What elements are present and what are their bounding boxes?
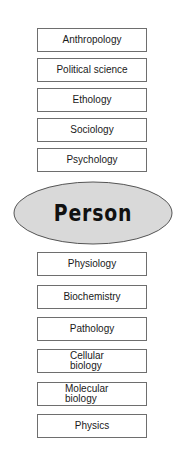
box-label: Ethology bbox=[73, 95, 112, 105]
box-label: Molecular biology bbox=[65, 384, 111, 404]
box-label: Pathology bbox=[70, 324, 114, 334]
box-label: Physiology bbox=[68, 259, 116, 269]
box-label: Sociology bbox=[70, 125, 113, 135]
box-political-science: Political science bbox=[37, 58, 147, 82]
box-anthropology: Anthropology bbox=[37, 28, 147, 52]
box-psychology: Psychology bbox=[37, 148, 147, 172]
box-label: Biochemistry bbox=[63, 292, 120, 302]
box-cellular-biology: Cellular biology bbox=[37, 349, 147, 373]
box-label: Political science bbox=[56, 65, 127, 75]
box-label: Psychology bbox=[66, 155, 117, 165]
box-pathology: Pathology bbox=[37, 317, 147, 341]
box-molecular-biology: Molecular biology bbox=[37, 382, 147, 406]
box-label: Anthropology bbox=[63, 35, 122, 45]
box-label: Cellular biology bbox=[70, 351, 114, 371]
box-ethology: Ethology bbox=[37, 88, 147, 112]
person-label: Person bbox=[27, 181, 158, 245]
box-sociology: Sociology bbox=[37, 118, 147, 142]
box-physiology: Physiology bbox=[37, 252, 147, 276]
box-label: Physics bbox=[75, 421, 109, 431]
person-ellipse: Person bbox=[13, 181, 173, 245]
box-biochemistry: Biochemistry bbox=[37, 285, 147, 309]
box-physics: Physics bbox=[37, 414, 147, 438]
